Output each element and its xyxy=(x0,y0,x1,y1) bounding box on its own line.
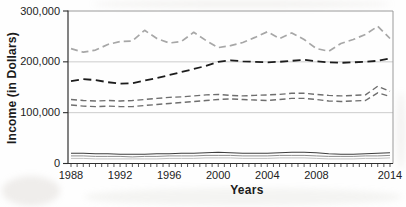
y-tick-label: 300,000 xyxy=(20,5,60,17)
x-tick-label: 2000 xyxy=(206,169,230,181)
y-tick-label: 200,000 xyxy=(20,55,60,67)
x-tick-label: 1996 xyxy=(157,169,181,181)
series-third-line xyxy=(71,86,390,101)
series-top-line xyxy=(71,26,390,52)
x-tick-label: 1988 xyxy=(59,169,83,181)
x-axis-title: Years xyxy=(207,183,287,197)
series-bottom-3-line xyxy=(71,158,390,159)
x-tick-label: 1992 xyxy=(108,169,132,181)
x-tick-label: 2004 xyxy=(255,169,279,181)
x-tick-label: 2008 xyxy=(304,169,328,181)
income-by-year-figure: 0100,000200,000300,000198819921996200020… xyxy=(0,0,406,207)
y-axis-title: Income (in Dollars) xyxy=(5,12,19,164)
income-line-chart: 0100,000200,000300,000198819921996200020… xyxy=(0,0,406,207)
y-tick-label: 0 xyxy=(54,157,60,169)
y-tick-label: 100,000 xyxy=(20,106,60,118)
x-tick-label: 2014 xyxy=(378,169,402,181)
series-bottom-2-line xyxy=(71,155,390,157)
series-bottom-1-line xyxy=(71,152,390,154)
series-fourth-line xyxy=(71,93,390,107)
